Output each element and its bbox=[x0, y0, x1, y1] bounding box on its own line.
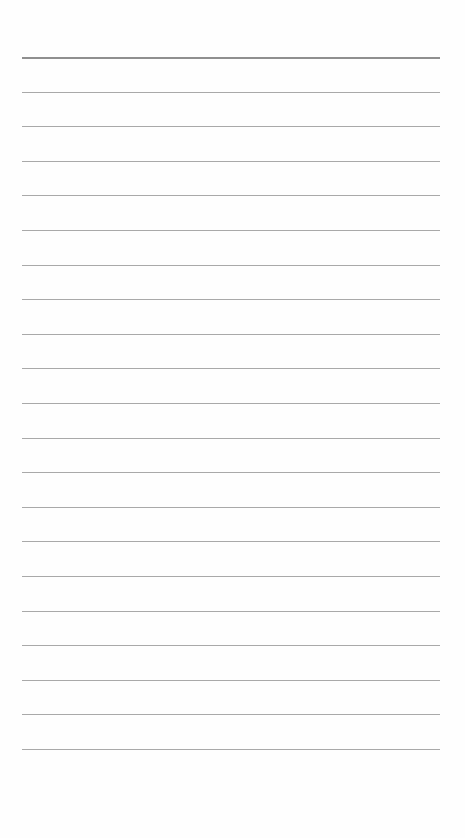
rule-line bbox=[22, 507, 440, 508]
rule-line bbox=[22, 749, 440, 750]
rule-line bbox=[22, 334, 440, 335]
rule-line bbox=[22, 299, 440, 300]
rule-line bbox=[22, 438, 440, 439]
lined-paper-sheet bbox=[0, 0, 465, 838]
rule-line bbox=[22, 714, 440, 715]
rule-line bbox=[22, 472, 440, 473]
rule-line bbox=[22, 576, 440, 577]
rule-line bbox=[22, 541, 440, 542]
rule-line bbox=[22, 230, 440, 231]
rule-line bbox=[22, 680, 440, 681]
rule-line bbox=[22, 645, 440, 646]
top-rule-line bbox=[22, 57, 440, 59]
rule-line bbox=[22, 403, 440, 404]
rule-line bbox=[22, 195, 440, 196]
rule-line bbox=[22, 368, 440, 369]
rule-line bbox=[22, 92, 440, 93]
rule-line bbox=[22, 611, 440, 612]
rule-line bbox=[22, 265, 440, 266]
rule-line bbox=[22, 126, 440, 127]
rule-line bbox=[22, 161, 440, 162]
